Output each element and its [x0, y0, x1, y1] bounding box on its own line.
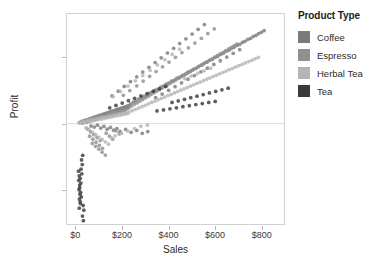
data-point: [79, 167, 83, 171]
data-point: [80, 163, 84, 167]
data-point: [170, 53, 174, 57]
legend-item-coffee[interactable]: Coffee: [298, 28, 384, 46]
data-point: [119, 90, 123, 94]
data-point: [176, 99, 180, 103]
data-point: [221, 71, 225, 75]
data-point: [92, 125, 96, 129]
data-point: [150, 101, 154, 105]
data-point: [91, 137, 95, 141]
data-point: [133, 96, 137, 100]
data-point: [153, 99, 157, 103]
data-point: [104, 131, 108, 135]
data-point: [109, 126, 113, 130]
data-point: [97, 143, 101, 147]
data-point: [180, 51, 184, 55]
data-point: [133, 79, 137, 83]
legend-swatch: [298, 67, 310, 79]
data-point: [135, 84, 139, 88]
scatter-plot: [67, 14, 284, 224]
legend-item-espresso[interactable]: Espresso: [298, 46, 384, 64]
data-point: [148, 68, 152, 72]
data-point: [196, 27, 200, 31]
y-axis-title: Profit: [9, 77, 20, 137]
data-point: [200, 102, 204, 106]
data-point: [114, 129, 118, 133]
data-point: [79, 181, 83, 185]
data-point: [103, 153, 107, 157]
data-point: [212, 63, 216, 67]
data-point: [181, 105, 185, 109]
legend-swatch: [298, 31, 310, 43]
data-point: [189, 84, 193, 88]
data-point: [231, 67, 235, 71]
data-point: [145, 92, 149, 96]
data-point: [100, 138, 104, 142]
data-point: [128, 89, 132, 93]
x-tick-label: $0: [70, 230, 80, 240]
data-point: [130, 109, 134, 113]
x-tick-label: $800: [252, 230, 272, 240]
legend-item-herbal-tea[interactable]: Herbal Tea: [298, 64, 384, 82]
data-point: [120, 101, 124, 105]
data-point: [78, 200, 82, 204]
data-point: [127, 110, 131, 114]
data-point: [77, 206, 81, 210]
data-point: [189, 96, 193, 100]
data-point: [166, 94, 170, 98]
data-point: [199, 70, 203, 74]
data-point: [78, 177, 82, 181]
data-point: [235, 42, 239, 46]
data-point: [141, 70, 145, 74]
data-point: [97, 147, 101, 151]
data-point: [206, 32, 210, 36]
data-point: [143, 103, 147, 107]
data-point: [207, 101, 211, 105]
data-point: [140, 105, 144, 109]
data-point: [100, 150, 104, 154]
data-point: [163, 95, 167, 99]
data-point: [151, 89, 155, 93]
legend-label: Herbal Tea: [317, 68, 363, 79]
legend-item-tea[interactable]: Tea: [298, 82, 384, 100]
data-point: [126, 129, 130, 133]
data-point: [218, 59, 222, 63]
x-tick-mark: [262, 226, 263, 230]
data-point: [78, 186, 82, 190]
data-point: [211, 75, 215, 79]
plot-area[interactable]: [66, 13, 285, 225]
data-point: [162, 108, 166, 112]
data-point: [226, 86, 230, 90]
data-point: [256, 56, 260, 60]
data-point: [107, 142, 111, 146]
data-point: [202, 23, 206, 27]
data-point: [127, 99, 131, 103]
data-point: [201, 93, 205, 97]
data-point: [234, 65, 238, 69]
data-point: [156, 98, 160, 102]
legend-label: Tea: [317, 86, 332, 97]
data-point: [185, 86, 189, 90]
data-point: [231, 51, 235, 55]
data-point: [253, 57, 257, 61]
x-axis-title: Sales: [66, 244, 285, 255]
data-point: [237, 64, 241, 68]
data-point: [193, 74, 197, 78]
chart-root: Profit $500$0($500) $0$200$400$600$800 S…: [0, 0, 384, 273]
data-point: [224, 69, 228, 73]
data-point: [169, 92, 173, 96]
data-point: [214, 73, 218, 77]
data-point: [192, 83, 196, 87]
data-point: [194, 103, 198, 107]
data-point: [126, 84, 130, 88]
data-point: [213, 100, 217, 104]
data-point: [81, 214, 85, 218]
data-point: [102, 125, 106, 129]
data-point: [205, 66, 209, 70]
data-point: [146, 130, 150, 134]
data-point: [202, 69, 206, 73]
data-point: [238, 48, 242, 52]
data-point: [160, 92, 164, 96]
data-point: [178, 47, 182, 51]
data-point: [225, 55, 229, 59]
data-point: [247, 60, 251, 64]
